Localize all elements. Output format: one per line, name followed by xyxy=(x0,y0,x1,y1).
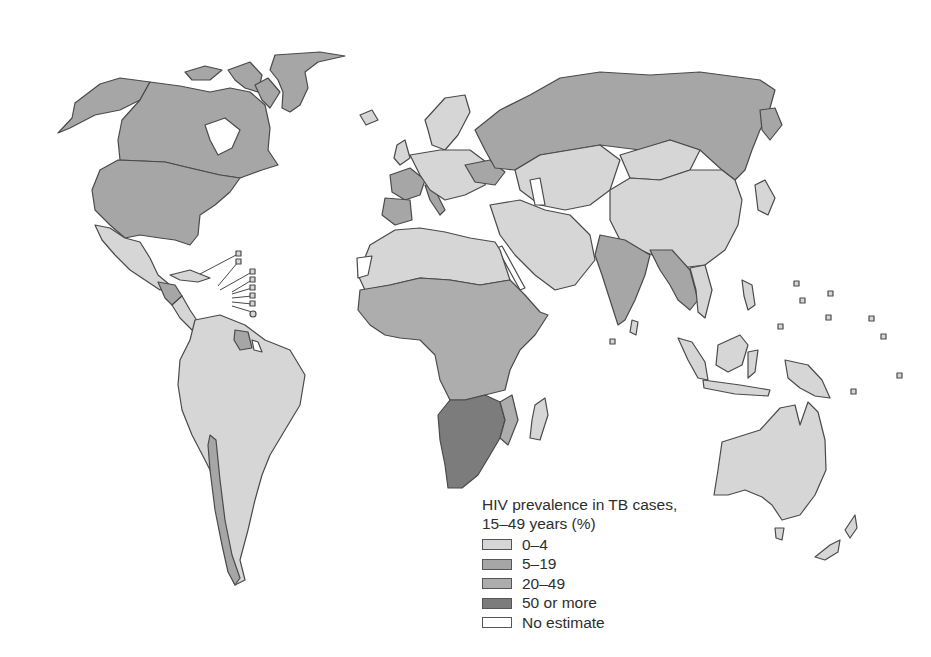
region-australia xyxy=(714,402,826,520)
region-sri-lanka xyxy=(630,320,638,335)
caribbean-callouts xyxy=(200,251,256,317)
pacific-islands xyxy=(610,281,902,394)
legend-swatch-0-4 xyxy=(482,539,512,550)
legend-swatch-5-19 xyxy=(482,559,512,570)
region-greenland xyxy=(270,52,345,112)
legend-title-line1: HIV prevalence in TB cases, xyxy=(482,495,677,514)
legend-item-no-estimate: No estimate xyxy=(482,613,677,633)
region-scandinavia xyxy=(425,95,470,150)
legend-item-0-4: 0–4 xyxy=(482,535,677,555)
world-map xyxy=(0,0,931,657)
region-west-central-east-africa xyxy=(358,278,548,400)
region-southern-africa xyxy=(438,395,505,488)
region-new-zealand xyxy=(845,515,857,538)
region-tasmania xyxy=(775,528,784,540)
legend-swatch-20-49 xyxy=(482,578,512,589)
map-legend: HIV prevalence in TB cases, 15–49 years … xyxy=(482,495,677,633)
legend-label: 50 or more xyxy=(522,594,597,612)
legend-item-50-plus: 50 or more xyxy=(482,594,677,614)
region-borneo xyxy=(716,335,748,372)
region-philippines xyxy=(742,280,755,310)
legend-label: No estimate xyxy=(522,614,605,632)
region-java xyxy=(703,380,770,396)
legend-swatch-no-estimate xyxy=(482,617,512,628)
region-arctic-islands xyxy=(185,66,222,80)
legend-label: 0–4 xyxy=(522,536,548,554)
region-kamchatka xyxy=(760,108,782,140)
region-madagascar xyxy=(530,398,548,440)
legend-title: HIV prevalence in TB cases, 15–49 years … xyxy=(482,495,677,533)
region-uk xyxy=(394,140,410,165)
region-south-america xyxy=(178,315,305,585)
legend-swatch-50-plus xyxy=(482,598,512,609)
legend-title-line2: 15–49 years (%) xyxy=(482,514,677,533)
region-sumatra xyxy=(678,338,708,380)
region-sulawesi xyxy=(748,350,758,378)
region-new-zealand-south xyxy=(815,540,840,560)
region-iberia xyxy=(382,198,412,225)
legend-label: 20–49 xyxy=(522,575,565,593)
legend-item-20-49: 20–49 xyxy=(482,574,677,594)
region-new-guinea xyxy=(785,360,830,398)
region-japan xyxy=(755,180,775,215)
legend-label: 5–19 xyxy=(522,555,556,573)
legend-item-5-19: 5–19 xyxy=(482,555,677,575)
region-iceland xyxy=(360,110,378,125)
